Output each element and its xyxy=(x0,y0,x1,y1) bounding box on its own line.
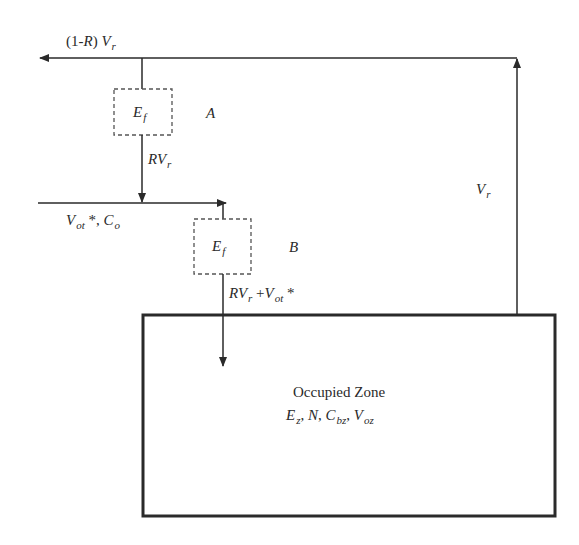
filter-a-sub: f xyxy=(143,111,146,123)
supply-flow-label: RVr +Vot * xyxy=(229,286,295,301)
supply-star: * xyxy=(283,285,294,301)
zone-param-voz-sub: oz xyxy=(364,414,374,426)
outdoor-c: C xyxy=(103,212,113,228)
exhaust-v-sub: r xyxy=(112,40,116,52)
zone-param-voz: V xyxy=(354,407,363,423)
filter-a-e: E xyxy=(133,104,142,120)
zone-param-n: N xyxy=(308,407,318,423)
return-v: V xyxy=(476,181,485,197)
outdoor-flow-label: Vot *, Co xyxy=(66,213,120,228)
filter-b-tag: B xyxy=(289,240,298,255)
zone-sep: , xyxy=(346,407,354,423)
supply-r: R xyxy=(229,285,238,301)
return-v-sub: r xyxy=(486,188,490,200)
zone-params: Ez, N, Cbz, Voz xyxy=(286,408,374,423)
zone-param-ez: E xyxy=(286,407,295,423)
filter-b-e: E xyxy=(212,238,221,254)
recirc-flow-label: RVr xyxy=(148,152,171,167)
zone-title: Occupied Zone xyxy=(293,385,385,400)
filter-a-label: Ef xyxy=(133,105,146,120)
outdoor-v-sub: ot xyxy=(76,219,85,231)
filter-b-sub: f xyxy=(222,245,225,257)
zone-sep: , xyxy=(300,407,308,423)
exhaust-v: V xyxy=(101,33,110,49)
zone-param-ez-sub: z xyxy=(296,414,300,426)
recirc-sub: r xyxy=(167,158,171,170)
supply-v-sub: r xyxy=(248,292,252,304)
outdoor-c-sub: o xyxy=(115,219,121,231)
supply-v: V xyxy=(238,285,247,301)
airflow-diagram: (1-R) Vr Ef A RVr Vot *, Co Ef B RVr +Vo… xyxy=(0,0,579,545)
outdoor-star: *, xyxy=(85,212,104,228)
recirc-v: V xyxy=(157,151,166,167)
outdoor-v: V xyxy=(66,212,75,228)
diagram-lines xyxy=(0,0,579,545)
supply-v2: V xyxy=(265,285,274,301)
zone-param-cbz: C xyxy=(325,407,335,423)
exhaust-prefix: (1- xyxy=(66,33,84,49)
return-flow-label: Vr xyxy=(476,182,490,197)
exhaust-r: R xyxy=(84,33,93,49)
filter-a-tag: A xyxy=(206,106,215,121)
supply-v2-sub: ot xyxy=(275,292,284,304)
supply-plus: + xyxy=(252,285,264,301)
exhaust-flow-label: (1-R) Vr xyxy=(66,34,116,49)
zone-param-cbz-sub: bz xyxy=(336,414,346,426)
recirc-r: R xyxy=(148,151,157,167)
filter-b-label: Ef xyxy=(212,239,225,254)
